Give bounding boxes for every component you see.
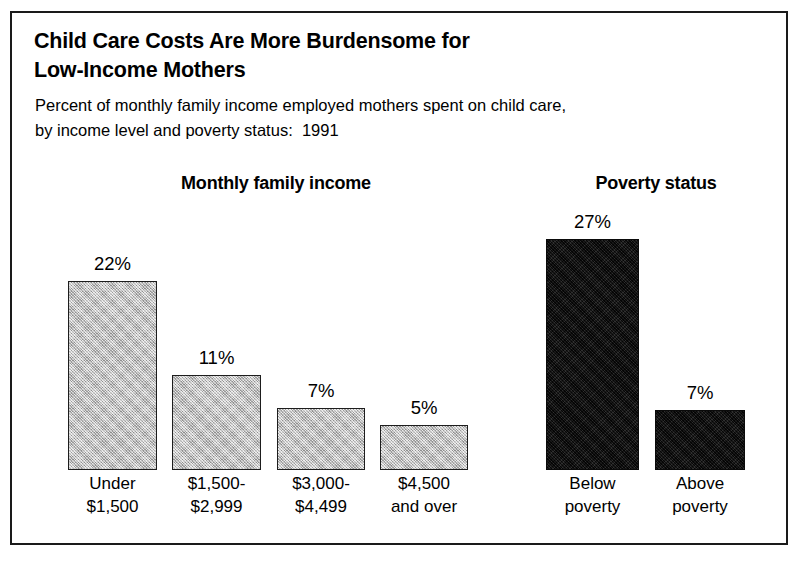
bar-rect[interactable] bbox=[380, 425, 468, 470]
group-heading-poverty-status: Poverty status bbox=[536, 173, 776, 194]
bar-value-label: 7% bbox=[655, 382, 745, 404]
bar-value-label: 7% bbox=[277, 380, 365, 402]
bar-value-label: 5% bbox=[380, 397, 468, 419]
bar-category-label-line2: and over bbox=[366, 495, 482, 518]
bar-category-label-line2: $1,500 bbox=[54, 495, 171, 518]
bar-category-label-line2: poverty bbox=[641, 495, 759, 518]
bar-category-label-line1: Below bbox=[532, 472, 653, 495]
bar-column: 27% Below poverty bbox=[546, 239, 639, 470]
bar-value-label: 22% bbox=[68, 253, 157, 275]
bar-category-label-line1: $4,500 bbox=[366, 472, 482, 495]
bar-column: 7% Above poverty bbox=[655, 410, 745, 470]
group-heading-monthly-family-income: Monthly family income bbox=[66, 173, 486, 194]
bar-rect[interactable] bbox=[546, 239, 639, 470]
bar-category-label: Under $1,500 bbox=[54, 472, 171, 518]
bar-column: 7% $3,000- $4,499 bbox=[277, 408, 365, 470]
bar-value-label: 27% bbox=[546, 211, 639, 233]
bar-category-label-line1: $3,000- bbox=[263, 472, 379, 495]
bar-rect[interactable] bbox=[172, 375, 261, 470]
bar-column: 11% $1,500- $2,999 bbox=[172, 375, 261, 470]
bar-category-label-line1: Under bbox=[54, 472, 171, 495]
bar-category-label-line1: Above bbox=[641, 472, 759, 495]
bar-category-label-line2: poverty bbox=[532, 495, 653, 518]
plot-area: Monthly family income Poverty status 22%… bbox=[12, 13, 790, 547]
bar-category-label-line2: $4,499 bbox=[263, 495, 379, 518]
bar-rect[interactable] bbox=[655, 410, 745, 470]
bar-category-label: $4,500 and over bbox=[366, 472, 482, 518]
bar-value-label: 11% bbox=[172, 347, 261, 369]
bar-category-label-line2: $2,999 bbox=[158, 495, 275, 518]
bar-rect[interactable] bbox=[68, 281, 157, 470]
bar-category-label-line1: $1,500- bbox=[158, 472, 275, 495]
bar-rect[interactable] bbox=[277, 408, 365, 470]
bar-column: 22% Under $1,500 bbox=[68, 281, 157, 470]
figure-frame: Child Care Costs Are More Burdensome for… bbox=[10, 11, 788, 545]
bar-category-label: Above poverty bbox=[641, 472, 759, 518]
bar-column: 5% $4,500 and over bbox=[380, 425, 468, 470]
bar-category-label: $3,000- $4,499 bbox=[263, 472, 379, 518]
bar-category-label: Below poverty bbox=[532, 472, 653, 518]
bar-category-label: $1,500- $2,999 bbox=[158, 472, 275, 518]
